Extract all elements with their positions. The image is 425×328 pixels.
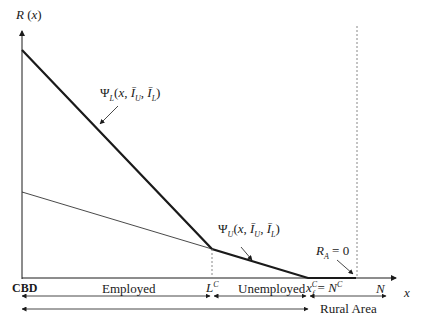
- n-label: N: [376, 282, 385, 295]
- employed-label: Employed: [102, 282, 155, 295]
- xf-label: xCf = NC: [306, 281, 342, 298]
- psi-l-label: ΨL(x, ĪU, ĪL): [100, 86, 160, 103]
- ra-pointer-arrow: [337, 260, 353, 274]
- cbd-label: CBD: [12, 282, 37, 294]
- x-axis-label: x: [404, 286, 410, 299]
- diagram-canvas: [0, 0, 425, 328]
- unemployed-label: Unemployed: [238, 282, 305, 295]
- bid-rent-curve: [22, 50, 356, 278]
- psi-u-label: ΨU(x, ĪU, ĪL): [218, 222, 280, 239]
- lc-label: LC: [206, 281, 219, 294]
- psi-l-pointer-arrow: [100, 106, 118, 124]
- y-axis-label: R (x): [16, 8, 42, 21]
- rural-area-label: Rural Area: [320, 302, 377, 315]
- rural-rent-label: RA = 0: [316, 244, 349, 261]
